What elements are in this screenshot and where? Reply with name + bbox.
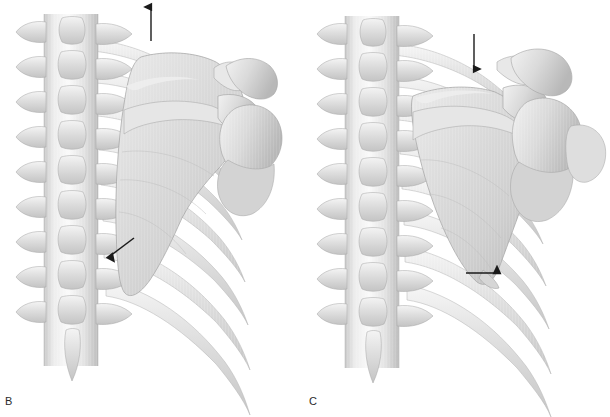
- panel-label-c: C: [309, 396, 317, 407]
- panel-label-b: B: [5, 396, 13, 407]
- panel-b-illustration: [0, 0, 305, 417]
- panel-c: C: [305, 0, 610, 417]
- humeral-head-b: [217, 105, 282, 216]
- transverse-processes-left-c: [317, 23, 347, 324]
- thoracic-spine-b: [16, 14, 132, 381]
- humeral-head-c: [510, 98, 605, 221]
- figure-canvas: B: [0, 0, 610, 417]
- panel-b: B: [0, 0, 305, 417]
- panel-c-illustration: [305, 0, 610, 417]
- transverse-processes-left-b: [16, 21, 46, 322]
- thoracic-spine-c: [317, 16, 433, 383]
